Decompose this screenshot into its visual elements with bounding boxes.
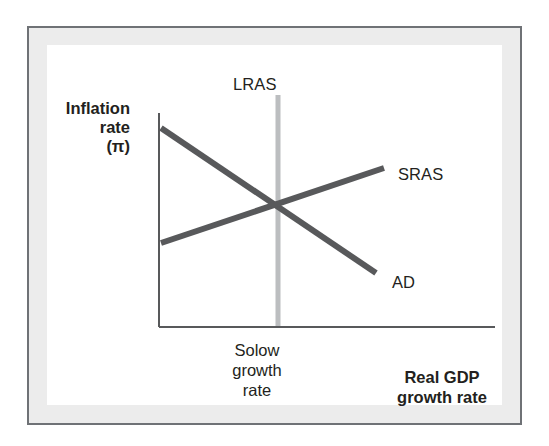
figure-outer-frame: Inflation rate (π) LRAS SRAS AD Solow gr… <box>27 26 522 425</box>
x-axis-label: Real GDP growth rate <box>367 367 517 407</box>
ad-label: AD <box>392 273 415 292</box>
figure-inner-card: Inflation rate (π) LRAS SRAS AD Solow gr… <box>47 45 502 405</box>
ad-curve <box>161 128 376 273</box>
figure-screenshot: Inflation rate (π) LRAS SRAS AD Solow gr… <box>0 0 549 446</box>
lras-label: LRAS <box>233 75 277 94</box>
y-axis-label: Inflation rate (π) <box>0 99 130 156</box>
sras-curve <box>161 168 384 243</box>
ad-as-diagram: Inflation rate (π) LRAS SRAS AD Solow gr… <box>47 45 502 405</box>
sras-label: SRAS <box>398 165 443 184</box>
solow-growth-rate-label: Solow growth rate <box>195 340 319 400</box>
